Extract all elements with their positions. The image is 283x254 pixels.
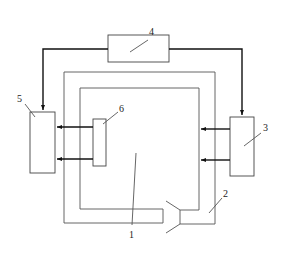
- label-1: 1: [129, 229, 134, 240]
- unit-3-box: [230, 117, 254, 176]
- schematic-diagram: 4 5 6 3 2 1: [0, 0, 283, 254]
- inlet-funnel: [166, 201, 180, 233]
- arrows-3-to-duct: [201, 129, 230, 160]
- label-2: 2: [223, 188, 228, 199]
- label-5: 5: [17, 93, 22, 104]
- unit-6-box: [93, 119, 106, 166]
- label-4: 4: [149, 26, 154, 37]
- outer-duct: [64, 72, 215, 224]
- label-3: 3: [263, 122, 268, 133]
- unit-4-box: [108, 35, 169, 62]
- label-6: 6: [119, 103, 124, 114]
- arrows-6-to-5: [57, 127, 93, 159]
- unit-5-box: [30, 112, 55, 173]
